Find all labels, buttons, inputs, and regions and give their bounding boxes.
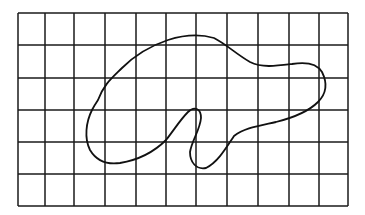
grid-diagram: [0, 0, 365, 215]
grid: [18, 13, 348, 206]
